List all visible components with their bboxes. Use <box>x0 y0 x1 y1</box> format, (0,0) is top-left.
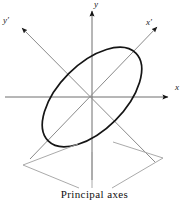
axis-label-x-prime: x′ <box>146 18 152 27</box>
axis-label-x: x <box>175 83 179 92</box>
figure-caption: Principal axes <box>0 188 189 200</box>
principal-axes-figure: y y′ x′ x Principal axes <box>0 0 189 206</box>
figure-canvas <box>0 0 189 206</box>
leader-right-bracket <box>112 142 163 188</box>
axis-label-y: y <box>94 0 98 9</box>
leader-left-bracket <box>23 144 79 188</box>
axis-label-y-prime: y′ <box>3 16 9 25</box>
axis-x-prime-line <box>30 27 157 159</box>
